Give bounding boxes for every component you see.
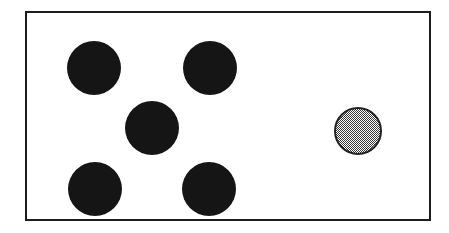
figure-canvas (0, 0, 449, 233)
black-circle (125, 101, 179, 155)
gray-circle (334, 107, 382, 155)
black-circle (67, 41, 121, 95)
black-circle (182, 162, 236, 216)
black-circle (183, 41, 237, 95)
black-circle (68, 162, 122, 216)
